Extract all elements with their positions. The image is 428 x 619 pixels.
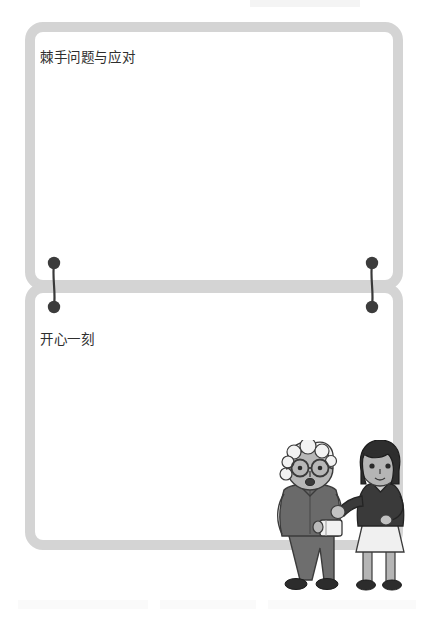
scan-artifact-bottom-center — [160, 600, 256, 609]
open-hand-icon — [331, 506, 345, 519]
scan-artifact-bottom-left — [18, 600, 148, 609]
young-woman-bob-haircut — [331, 440, 404, 590]
scan-artifact-top — [250, 0, 360, 7]
scan-artifact-bottom-right — [268, 600, 416, 609]
page-root: 棘手问题与应对 开心一刻 — [0, 0, 428, 619]
card-bottom-title: 开心一刻 — [40, 330, 94, 348]
two-people-illustration — [262, 440, 428, 600]
card-top-title: 棘手问题与应对 — [40, 48, 135, 66]
